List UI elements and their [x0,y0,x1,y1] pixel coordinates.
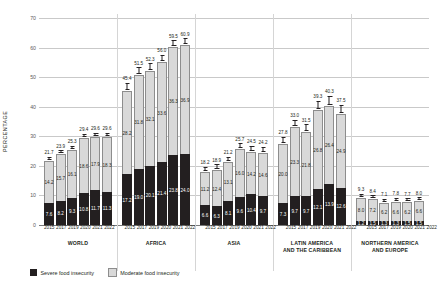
x-tick-group: 201520172019202020212022 [361,225,442,237]
bar-2020[interactable]: 33.621.456.0 [157,62,167,225]
bar-2020[interactable]: 26.812.139.3 [313,110,323,225]
moderate-segment: 6.6 [414,201,424,221]
x-tick-2019: 2019 [310,225,320,237]
error-bar [395,198,396,201]
moderate-value-label: 14.6 [259,173,268,178]
x-tick-2017: 2017 [217,225,227,237]
x-tick-2019: 2019 [390,225,400,237]
group-label-line: AND THE CARIBBEAN [274,247,350,254]
bar-2015[interactable]: 28.217.245.4 [122,91,132,225]
severe-segment: 11.3 [102,192,112,225]
bar-group-africa: 28.217.245.431.819.051.532.120.152.333.6… [117,18,195,225]
severe-value-label: 13.9 [325,202,334,207]
severe-value-label: 7.3 [280,212,286,217]
moderate-segment: 28.2 [122,91,132,174]
total-value-label: 31.5 [302,118,311,123]
bar-2015[interactable]: 8.01.29.3 [356,198,366,225]
y-tick-70: 70 [22,15,36,21]
error-bar [216,164,217,169]
group-name-labels: WORLDAFRICAASIALATIN AMERICAAND THE CARI… [39,240,429,266]
bar-2022[interactable]: 36.924.060.9 [180,45,190,225]
bar-2022[interactable]: 6.61.58.0 [414,201,424,225]
bar-2017[interactable]: 23.39.733.0 [290,127,300,225]
x-tick-2015: 2015 [205,225,215,237]
moderate-value-label: 36.9 [181,97,190,102]
error-bar [106,133,107,137]
bar-2017[interactable]: 12.46.318.9 [212,170,222,225]
x-tick-2022: 2022 [185,225,195,237]
moderate-segment: 20.0 [278,144,288,203]
x-tick-group: 201520172019202020212022 [200,225,281,237]
severe-value-label: 17.2 [123,197,132,202]
total-value-label: 25.7 [235,137,244,142]
moderate-segment: 26.8 [313,110,323,189]
y-tick-20: 20 [22,163,36,169]
moderate-value-label: 18.6 [79,164,88,169]
total-value-label: 24.5 [247,139,256,144]
bar-2021[interactable]: 26.413.940.3 [324,106,334,225]
bar-2021[interactable]: 6.21.57.7 [402,202,412,225]
bar-2020[interactable]: 16.09.625.7 [235,149,245,225]
group-label-line: WORLD [40,240,116,247]
x-tick-2020: 2020 [402,225,412,237]
x-tick-2015: 2015 [366,225,376,237]
bar-2019[interactable]: 6.21.37.1 [379,203,389,225]
bar-2020[interactable]: 18.610.829.4 [79,138,89,225]
bar-2022[interactable]: 24.912.637.5 [336,114,346,225]
y-axis-title: PERCENTAGE [2,111,8,152]
bar-2022[interactable]: 18.311.329.6 [102,137,112,225]
severe-value-label: 24.0 [181,187,190,192]
bar-2017[interactable]: 7.21.58.4 [368,199,378,225]
moderate-segment: 11.2 [200,172,210,205]
severe-value-label: 10.4 [247,207,256,212]
bar-2019[interactable]: 13.18.121.2 [223,162,233,225]
moderate-value-label: 33.6 [157,110,166,115]
moderate-value-label: 13.1 [224,180,233,185]
severe-segment: 9.7 [301,196,311,225]
bar-2021[interactable]: 17.911.729.6 [90,137,100,225]
error-bar [72,146,73,149]
severe-value-label: 6.3 [213,213,219,218]
moderate-value-label: 17.9 [91,162,100,167]
bar-2015[interactable]: 14.27.621.7 [44,161,54,225]
error-bar [138,67,139,74]
bar-2017[interactable]: 31.819.051.5 [134,75,144,225]
y-tick-50: 50 [22,74,36,80]
group-label: WORLD [39,240,117,266]
moderate-swatch [108,268,117,277]
severe-segment: 12.1 [313,189,323,225]
severe-swatch [30,269,37,276]
moderate-value-label: 26.4 [325,143,334,148]
total-value-label: 23.9 [56,144,65,149]
moderate-segment: 31.8 [134,75,144,169]
group-label: AFRICA [117,240,195,266]
severe-segment: 17.2 [122,174,132,225]
severe-segment: 13.9 [324,184,334,225]
x-tick-2017: 2017 [298,225,308,237]
bar-2019[interactable]: 32.120.152.3 [145,71,155,225]
total-value-label: 59.5 [169,34,178,39]
group-label: ASIA [195,240,273,266]
x-axis-tick-labels: 2015201720192020202120222015201720192020… [39,225,429,237]
total-value-label: 60.9 [181,32,190,37]
bar-2019[interactable]: 21.89.731.5 [301,132,311,225]
severe-value-label: 23.8 [169,187,178,192]
x-tick-2020: 2020 [80,225,90,237]
severe-value-label: 21.4 [157,191,166,196]
bar-2017[interactable]: 15.78.223.9 [56,154,66,225]
bar-2015[interactable]: 11.26.618.2 [200,172,210,225]
moderate-value-label: 8.0 [358,208,364,213]
moderate-segment: 17.9 [90,137,100,190]
severe-value-label: 8.2 [57,210,63,215]
group-label: LATIN AMERICAAND THE CARIBBEAN [273,240,351,266]
bar-2021[interactable]: 14.210.424.5 [246,152,256,225]
severe-segment: 20.1 [145,166,155,225]
bar-2020[interactable]: 6.61.37.8 [391,202,401,225]
bar-2022[interactable]: 14.69.724.2 [258,153,268,225]
group-label-line: LATIN AMERICA [274,240,350,247]
moderate-segment: 7.2 [368,199,378,220]
bar-2021[interactable]: 36.323.859.5 [168,47,178,225]
bar-2015[interactable]: 20.07.327.8 [278,144,288,225]
error-bar [317,101,318,109]
bar-2019[interactable]: 16.19.325.3 [67,150,77,225]
